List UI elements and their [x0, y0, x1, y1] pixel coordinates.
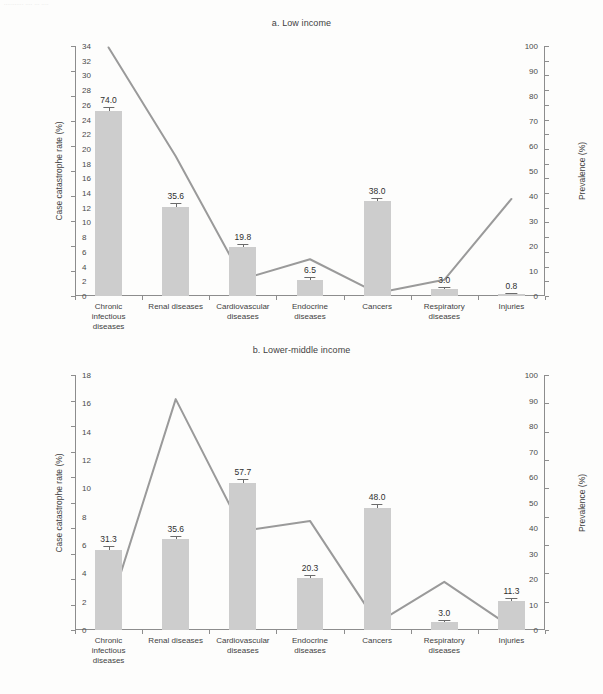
x-category-label: Cancers	[362, 302, 392, 312]
x-tick	[478, 630, 479, 634]
y-tick-label: 0	[534, 292, 538, 301]
y2-tick	[545, 61, 549, 62]
error-bar-cap	[372, 198, 383, 199]
x-category-label: Cardiovascular diseases	[216, 302, 269, 322]
y-tick-label: 80	[529, 92, 538, 101]
x-tick	[209, 630, 210, 634]
error-bar-cap	[237, 479, 248, 480]
y2-tick-label: 14	[82, 189, 91, 198]
y-tick	[71, 503, 75, 504]
bar	[162, 539, 189, 630]
bar-value-label: 38.0	[369, 186, 386, 196]
bar	[162, 207, 189, 296]
y2-tick-label: 10	[82, 218, 91, 227]
y2-tick-label: 12	[82, 456, 91, 465]
y-tick-label: 60	[529, 142, 538, 151]
error-bar-cap	[237, 244, 248, 245]
bar-value-label: 57.7	[235, 467, 252, 477]
x-category-label: Chronic infectious diseases	[92, 636, 126, 666]
bar	[431, 622, 458, 630]
x-tick	[276, 296, 277, 300]
y2-tick	[545, 193, 549, 194]
y-tick-label: 70	[529, 117, 538, 126]
error-bar-cap	[103, 107, 114, 108]
bar-value-label: 11.3	[503, 586, 519, 596]
chart-b-ylabel: Case catastrophe rate (%)	[54, 453, 64, 552]
y2-tick	[545, 222, 549, 223]
x-tick	[142, 296, 143, 300]
y-tick	[71, 477, 75, 478]
y-tick	[71, 452, 75, 453]
y2-tick	[545, 375, 549, 376]
bar-value-label: 74.0	[100, 95, 117, 105]
chart-a-title: a. Low income	[0, 18, 603, 28]
y2-tick-label: 26	[82, 100, 91, 109]
chart-a-ylabel: Case catastrophe rate (%)	[54, 121, 64, 220]
y-tick-label: 100	[525, 42, 538, 51]
x-category-label: Respiratory diseases	[424, 302, 465, 322]
error-bar-cap	[170, 203, 181, 204]
y2-tick-label: 12	[82, 203, 91, 212]
y2-tick-label: 10	[82, 484, 91, 493]
error-bar-cap	[170, 536, 181, 537]
x-tick	[276, 630, 277, 634]
y2-tick-label: 8	[82, 233, 86, 242]
y-tick	[71, 605, 75, 606]
y2-tick	[545, 267, 549, 268]
y-tick-label: 40	[529, 524, 538, 533]
y-tick-label: 20	[529, 575, 538, 584]
y-tick-label: 40	[529, 192, 538, 201]
bar-value-label: 35.6	[167, 524, 184, 534]
y2-tick-label: 22	[82, 130, 91, 139]
bar	[498, 601, 525, 630]
x-tick	[344, 630, 345, 634]
y2-tick	[545, 488, 549, 489]
y-tick	[71, 146, 75, 147]
error-bar-cap	[103, 546, 114, 547]
y2-tick	[545, 573, 549, 574]
y2-tick	[545, 164, 549, 165]
bar-value-label: 6.5	[304, 265, 316, 275]
y2-tick	[545, 105, 549, 106]
y-tick-label: 70	[529, 447, 538, 456]
figure-page: ........... .... ... .... a. Low income …	[0, 0, 603, 694]
bar	[95, 111, 122, 296]
x-category-label: Renal diseases	[148, 636, 203, 646]
y2-tick-label: 14	[82, 427, 91, 436]
y2-tick	[545, 149, 549, 150]
y2-tick	[545, 602, 549, 603]
y2-tick	[545, 432, 549, 433]
x-tick	[142, 630, 143, 634]
y-tick	[71, 528, 75, 529]
y-tick-label: 80	[529, 422, 538, 431]
y2-tick	[545, 75, 549, 76]
x-tick	[478, 296, 479, 300]
bar-value-label: 3.0	[438, 275, 450, 285]
y2-tick	[545, 403, 549, 404]
y2-tick-label: 28	[82, 86, 91, 95]
y2-tick	[545, 237, 549, 238]
y-tick	[71, 121, 75, 122]
y-tick	[71, 554, 75, 555]
y-tick-label: 10	[529, 267, 538, 276]
x-tick	[75, 630, 76, 634]
error-bar-cap	[506, 293, 517, 294]
x-tick	[411, 630, 412, 634]
y2-tick	[545, 252, 549, 253]
y-tick	[71, 46, 75, 47]
y-tick-label: 90	[529, 67, 538, 76]
y-tick-label: 0	[534, 626, 538, 635]
y-tick	[71, 401, 75, 402]
y2-tick	[545, 178, 549, 179]
x-category-label: Cardiovascular diseases	[216, 636, 269, 656]
y2-tick-label: 18	[82, 159, 91, 168]
y2-tick	[545, 281, 549, 282]
chart-a-line-series	[75, 46, 545, 296]
y2-tick	[545, 208, 549, 209]
y2-tick	[545, 460, 549, 461]
x-category-label: Injuries	[499, 636, 525, 646]
x-category-label: Endocrine diseases	[292, 302, 328, 322]
y-tick-label: 60	[529, 473, 538, 482]
error-bar-cap	[304, 277, 315, 278]
y2-tick-label: 30	[82, 71, 91, 80]
